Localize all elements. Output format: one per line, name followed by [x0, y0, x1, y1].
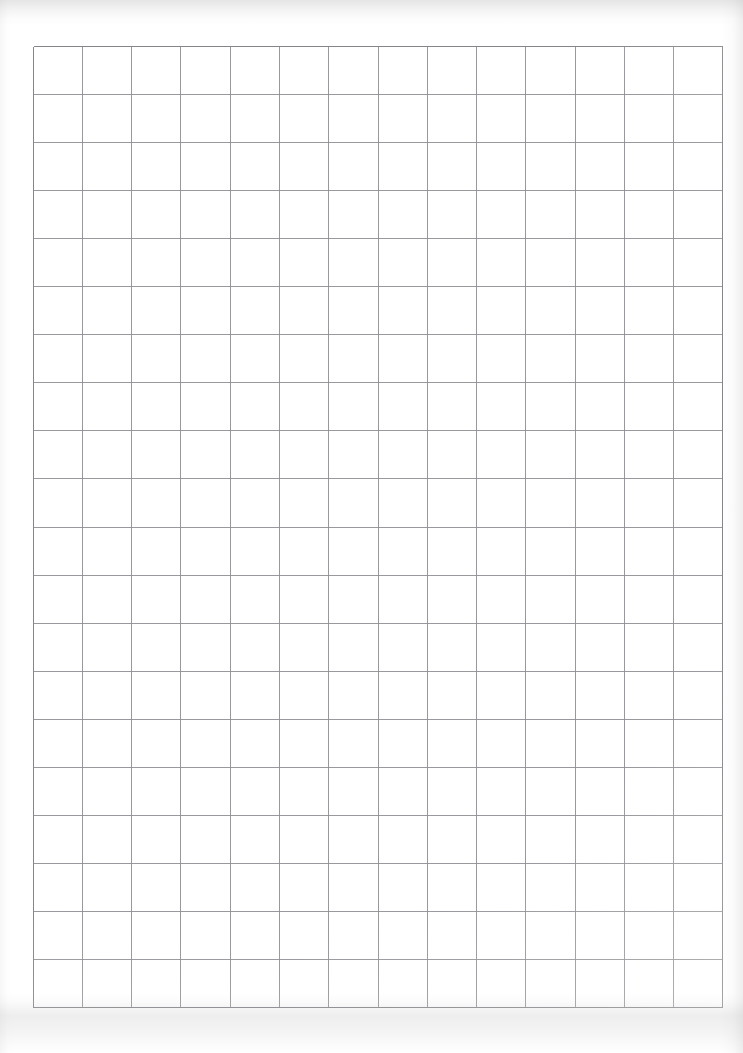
scanned-page — [0, 0, 743, 1053]
page-edge-right — [721, 0, 743, 1053]
page-edge-left — [0, 0, 14, 1053]
scanner-shadow-top — [0, 0, 743, 26]
grid-lines-svg — [33, 46, 723, 1008]
graph-paper-grid — [33, 46, 723, 1008]
